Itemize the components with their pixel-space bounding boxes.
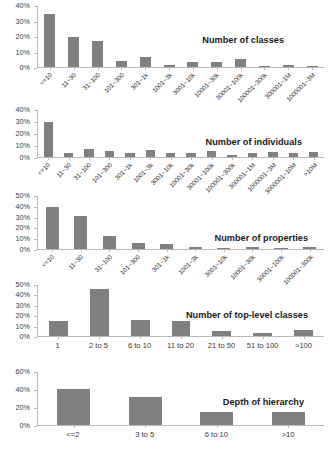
bar-cell (99, 110, 119, 157)
x-axis: <=23 to 56 to 10>10 (37, 428, 324, 450)
bar (84, 149, 93, 157)
chart-title: Number of properties (215, 234, 308, 243)
x-tick: 21 to 50 (201, 339, 242, 359)
x-tick-label: 2 to 5 (89, 342, 108, 350)
x-tick-label: >10 (282, 431, 295, 439)
y-tick-label: 10% (16, 142, 30, 149)
plot-wrap: 0%10%20%30%40%50%<=1011~3031~100101~3003… (0, 196, 330, 282)
bar (129, 397, 162, 425)
bar (44, 14, 55, 67)
x-axis: 12 to 56 to 1011 to 2021 to 5051 to 100>… (37, 339, 324, 359)
x-tick: >10M (304, 160, 325, 196)
bar-cell (120, 110, 140, 157)
chart-title: Number of classes (202, 36, 284, 45)
y-tick-mark (34, 250, 37, 251)
x-tick: <=2 (37, 428, 109, 450)
y-tick-label: 0% (20, 246, 30, 253)
x-tick: >10 (252, 428, 324, 450)
x-tick-label: 301~1k (151, 254, 170, 273)
x-tick-label: >10M (302, 162, 318, 178)
y-axis: 0%10%20%30%40% (0, 110, 34, 158)
x-tick: <=10 (37, 70, 61, 100)
bar (44, 122, 53, 157)
bar (146, 150, 155, 157)
x-tick: 2 to 5 (78, 339, 119, 359)
y-tick-label: 10% (16, 49, 30, 56)
y-tick-label: 20% (16, 225, 30, 232)
y-axis: 0%10%20%30%40%50% (0, 285, 34, 337)
x-tick-label: 1001~3k (177, 254, 199, 276)
y-tick-label: 40% (16, 292, 30, 299)
x-tick-label: >100 (295, 342, 312, 350)
y-tick-label: 40% (16, 2, 30, 9)
y-tick-label: 50% (16, 192, 30, 199)
x-tick-label: 11~30 (61, 72, 78, 89)
bar-cell (263, 110, 283, 157)
x-tick-label: <=10 (37, 162, 52, 177)
plot-wrap: 0%10%20%30%40%<=1011~3031~100101~300301~… (0, 110, 330, 194)
bar-cell (140, 110, 160, 157)
x-axis: <=1011~3031~100101~300301~1k1001~3k3001~… (37, 160, 324, 196)
x-axis: <=1011~3031~100101~300301~1k1001~3k3001~… (37, 70, 324, 100)
figure-container: 0%10%20%30%40%<=1011~3031~100101~300301~… (0, 0, 330, 461)
y-tick-label: 10% (16, 323, 30, 330)
x-tick: 51 to 100 (242, 339, 283, 359)
bar-cell (242, 110, 262, 157)
x-tick: 6 to 10 (181, 428, 253, 450)
y-tick-label: 10% (16, 236, 30, 243)
x-tick: 301~1k (152, 252, 181, 284)
bar-cell (38, 110, 58, 157)
y-tick-mark (34, 68, 37, 69)
bar-cell (300, 6, 324, 67)
bar-cell (201, 110, 221, 157)
x-tick-label: 11~30 (55, 162, 72, 179)
bar-cell (86, 6, 110, 67)
y-tick-label: 20% (16, 130, 30, 137)
y-axis: 0%10%20%30%40% (0, 6, 34, 68)
bar-cell (222, 110, 242, 157)
chart-number-of-individuals: 0%10%20%30%40%<=1011~3031~100101~300301~… (0, 110, 330, 194)
bar-cell (124, 196, 153, 249)
bar-cell (38, 372, 110, 425)
x-tick: 3000001~10M (283, 160, 304, 196)
bar (90, 289, 109, 336)
bar-cell (303, 110, 323, 157)
x-tick-label: 101~300 (120, 254, 142, 276)
y-tick-label: 0% (20, 64, 30, 71)
chart-number-of-classes: 0%10%20%30%40%<=1011~3031~100101~300301~… (0, 6, 330, 98)
x-tick-label: 301~1k (130, 72, 149, 91)
bar-cell (181, 6, 205, 67)
x-tick-label: 1 (55, 342, 59, 350)
chart-title: Number of top-level classes (186, 311, 308, 320)
x-tick-label: 11~30 (68, 254, 85, 271)
x-tick-label: 6 to 10 (128, 342, 151, 350)
bar-cell (181, 110, 201, 157)
x-tick: >100 (283, 339, 324, 359)
chart-number-of-properties: 0%10%20%30%40%50%<=1011~3031~100101~3003… (0, 196, 330, 282)
bar-cell (120, 285, 161, 336)
y-tick-label: 30% (16, 214, 30, 221)
chart-title: Number of individuals (206, 138, 302, 147)
y-tick-label: 40% (16, 106, 30, 113)
x-tick-label: 3 to 5 (135, 431, 154, 439)
bar-cell (161, 110, 181, 157)
bar-cell (152, 196, 181, 249)
x-tick-label: 11 to 20 (167, 342, 194, 350)
chart-number-of-top-level-classes: 0%10%20%30%40%50%12 to 56 to 1011 to 202… (0, 285, 330, 357)
bar (74, 216, 87, 249)
bar-cell (110, 372, 182, 425)
x-tick: 3 to 5 (109, 428, 181, 450)
bar-cell (157, 6, 181, 67)
bar (92, 41, 103, 67)
x-tick-label: <=10 (39, 72, 54, 87)
x-tick-label: 6 to 10 (205, 431, 228, 439)
bar-series (38, 110, 324, 157)
bar-cell (79, 285, 120, 336)
bar-cell (67, 196, 96, 249)
y-tick-label: 20% (16, 33, 30, 40)
x-tick: 1000001~3M (300, 70, 324, 100)
bar-cell (58, 110, 78, 157)
plot-area (37, 110, 324, 158)
y-tick-label: 40% (16, 386, 30, 393)
bar (49, 321, 68, 336)
